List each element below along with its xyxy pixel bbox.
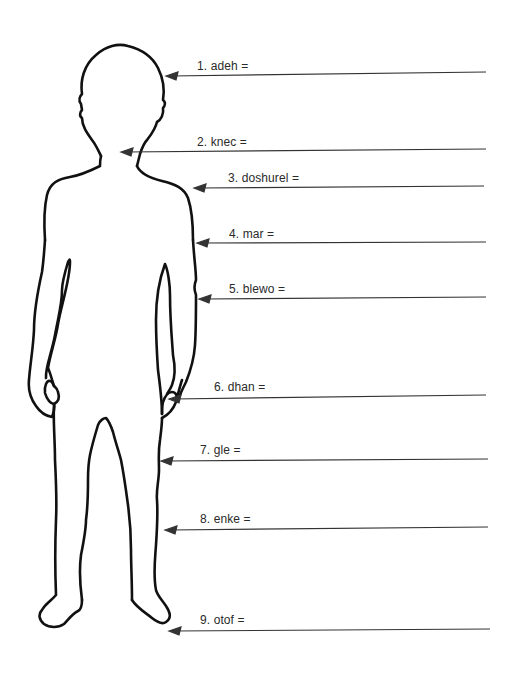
right-leg-outline: [132, 418, 170, 623]
left-hand-outline: [45, 381, 59, 404]
left-inner-arm-outline: [46, 260, 70, 386]
label-3-doshurel: 3. doshurel =: [228, 171, 299, 185]
left-arm-outline: [29, 240, 55, 417]
left-shoulder-outline: [44, 156, 101, 240]
child-body-outline: [0, 0, 517, 698]
label-7-gle: 7. gle =: [200, 443, 241, 457]
label-4-mar: 4. mar =: [229, 227, 274, 241]
label-5-blewo: 5. blewo =: [229, 282, 285, 296]
left-inner-leg-outline: [80, 418, 132, 600]
label-9-otof: 9. otof =: [200, 613, 245, 627]
arrow-lines: [121, 72, 490, 635]
label-1-adeh: 1. adeh =: [197, 59, 248, 73]
left-leg-outline: [40, 404, 82, 627]
body-parts-worksheet: 1. adeh = 2. knec = 3. doshurel = 4. mar…: [0, 0, 517, 698]
label-8-enke: 8. enke =: [200, 512, 251, 526]
label-6-dhan: 6. dhan =: [214, 380, 265, 394]
right-shoulder-outline: [137, 166, 193, 240]
label-2-knec: 2. knec =: [197, 135, 247, 149]
head-outline: [79, 45, 164, 166]
right-arm-outline: [180, 240, 196, 395]
